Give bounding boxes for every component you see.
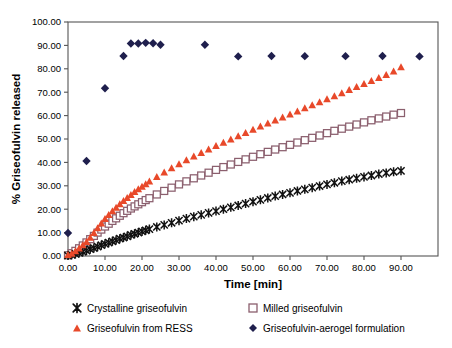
plot-area: 0.0010.0020.0030.0040.0050.0060.0070.008… <box>0 0 452 300</box>
data-point <box>279 190 286 199</box>
data-point <box>286 188 293 197</box>
data-point <box>316 98 324 105</box>
y-axis-title: % Griseofulvin released <box>10 74 22 204</box>
data-point <box>227 203 234 212</box>
data-point <box>323 95 331 102</box>
data-point <box>301 52 309 60</box>
data-point <box>235 158 242 165</box>
data-point <box>375 170 382 179</box>
data-point <box>257 151 264 158</box>
data-point <box>242 199 249 208</box>
data-point <box>264 193 271 202</box>
y-tick-label: 100.00 <box>32 16 61 27</box>
data-point <box>190 175 197 182</box>
data-point <box>190 153 198 160</box>
open-square-icon <box>246 301 260 315</box>
data-point <box>301 185 308 194</box>
data-point <box>294 139 301 146</box>
data-point <box>168 164 176 171</box>
data-point <box>390 167 397 176</box>
data-point <box>168 184 175 191</box>
data-point <box>234 52 242 60</box>
data-point <box>234 132 242 139</box>
data-point <box>220 139 228 146</box>
x-tick-label: 80.00 <box>352 262 376 273</box>
data-point <box>271 117 279 124</box>
data-point <box>308 101 316 108</box>
data-point <box>183 214 190 223</box>
data-point <box>205 169 212 176</box>
data-point <box>168 218 175 227</box>
data-point <box>197 149 205 156</box>
data-point <box>249 197 256 206</box>
data-point <box>153 222 160 231</box>
data-point <box>257 195 264 204</box>
data-point <box>213 166 220 173</box>
data-point <box>242 156 249 163</box>
data-point <box>161 187 168 194</box>
legend-label-crystalline: Crystalline griseofulvin <box>87 303 187 314</box>
data-point <box>346 123 353 130</box>
data-point <box>341 52 349 60</box>
y-tick-label: 20.00 <box>37 204 61 215</box>
chart-figure: 0.0010.0020.0030.0040.0050.0060.0070.008… <box>0 0 452 348</box>
y-tick-label: 40.00 <box>37 157 61 168</box>
filled-triangle-icon <box>70 321 84 335</box>
data-point <box>286 110 294 117</box>
data-point <box>287 141 294 148</box>
data-point <box>198 210 205 219</box>
data-point <box>353 121 360 128</box>
data-point <box>360 172 367 181</box>
y-tick-label: 50.00 <box>37 133 61 144</box>
scatter-plot: 0.0010.0020.0030.0040.0050.0060.0070.008… <box>0 0 452 300</box>
data-point <box>119 52 127 60</box>
data-point <box>82 157 90 165</box>
data-point <box>156 40 164 48</box>
data-point <box>101 84 109 92</box>
data-point <box>397 63 405 70</box>
x-star-icon <box>70 301 84 315</box>
data-point <box>183 178 190 185</box>
filled-diamond-icon <box>246 321 260 335</box>
legend-item-milled: Milled griseofulvin <box>246 298 442 318</box>
legend-item-crystalline: Crystalline griseofulvin <box>70 298 246 318</box>
x-axis-title: Time [min] <box>224 278 282 290</box>
data-point <box>176 181 183 188</box>
data-point <box>175 160 183 167</box>
data-point <box>205 208 212 217</box>
data-point <box>383 113 390 120</box>
legend-label-milled: Milled griseofulvin <box>263 303 342 314</box>
data-point <box>353 174 360 183</box>
data-point <box>346 175 353 184</box>
data-point <box>198 172 205 179</box>
data-point <box>398 110 405 117</box>
data-point <box>294 186 301 195</box>
data-point <box>201 40 209 48</box>
data-point <box>323 180 330 189</box>
x-tick-label: 20.00 <box>130 262 154 273</box>
data-point <box>301 137 308 144</box>
data-point <box>146 195 153 202</box>
data-point <box>227 161 234 168</box>
data-point <box>331 127 338 134</box>
data-point <box>183 156 191 163</box>
data-point <box>338 89 346 96</box>
data-point <box>378 52 386 60</box>
x-tick-label: 60.00 <box>278 262 302 273</box>
data-point <box>415 52 423 60</box>
data-point <box>345 86 353 93</box>
data-point <box>397 166 404 175</box>
y-tick-label: 0.00 <box>43 250 62 261</box>
x-tick-label: 0.00 <box>59 262 78 273</box>
x-tick-label: 50.00 <box>241 262 265 273</box>
data-point <box>160 168 168 175</box>
legend-row-2: Griseofulvin from RESS Griseofulvin-aero… <box>70 318 442 338</box>
data-point <box>220 164 227 171</box>
x-tick-label: 40.00 <box>204 262 228 273</box>
data-point <box>235 201 242 210</box>
data-point <box>264 148 271 155</box>
data-point <box>383 168 390 177</box>
data-point <box>227 135 235 142</box>
data-point <box>375 74 383 81</box>
data-point <box>249 126 257 133</box>
